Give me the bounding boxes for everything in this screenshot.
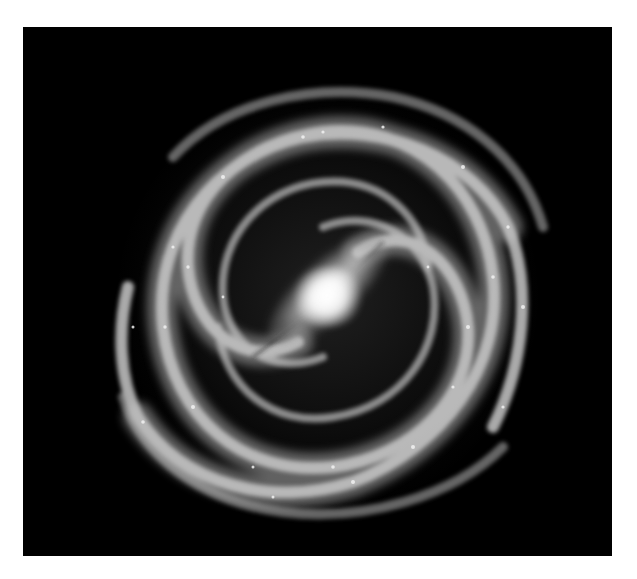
spiral-galaxy [23,27,612,556]
galaxy-image-frame [23,27,612,556]
galactic-core [293,267,363,327]
